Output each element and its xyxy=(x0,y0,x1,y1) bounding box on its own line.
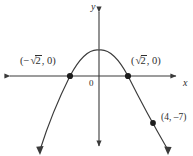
curve-arrow-right xyxy=(164,146,171,155)
radicand: 2 xyxy=(35,55,41,67)
root-right-suffix: , 0) xyxy=(147,55,161,66)
curve-arrow-left xyxy=(36,146,43,155)
origin-label: 0 xyxy=(89,79,94,88)
root-left-suffix: , 0) xyxy=(42,55,56,66)
point-four-neg-seven xyxy=(150,120,156,126)
extra-point-label: (4, –7) xyxy=(161,113,186,123)
point-root-left xyxy=(67,73,73,79)
root-right-label: (√2, 0) xyxy=(131,55,161,67)
root-left-label: (−√2, 0) xyxy=(20,55,56,67)
root-right-radical: √2 xyxy=(135,55,147,67)
point-root-right xyxy=(125,73,131,79)
coordinate-plane-svg xyxy=(0,0,193,156)
x-axis-label: x xyxy=(183,78,187,88)
graph-figure: y x 0 (−√2, 0) (√2, 0) (4, –7) xyxy=(0,0,193,156)
y-axis-label: y xyxy=(91,2,95,12)
root-left-radical: √2 xyxy=(29,55,41,67)
radicand: 2 xyxy=(141,55,147,67)
